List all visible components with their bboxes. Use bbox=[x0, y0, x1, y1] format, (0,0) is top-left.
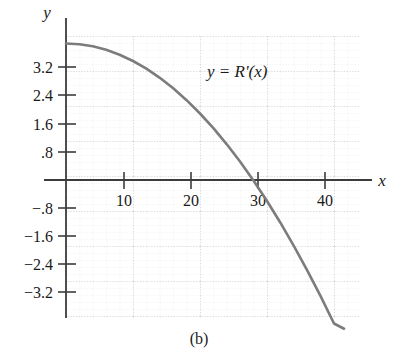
y-tick-label-neg1.6: −1.6 bbox=[24, 228, 53, 245]
y-tick-label-3.2: 3.2 bbox=[33, 59, 53, 76]
x-axis-label: x bbox=[377, 171, 386, 190]
chart-canvas: 10 20 30 40 3.2 2.4 1.6 .8 −.8 −1.6 −2.4… bbox=[0, 0, 398, 356]
figure-caption: (b) bbox=[0, 330, 398, 348]
y-tick-label-2.4: 2.4 bbox=[33, 87, 53, 104]
x-tick-label-40: 40 bbox=[317, 192, 333, 209]
y-tick-label-0.8: .8 bbox=[41, 144, 53, 161]
y-tick-label-neg2.4: −2.4 bbox=[24, 256, 53, 273]
y-tick-label-neg0.8: −.8 bbox=[32, 200, 53, 217]
y-tick-label-neg3.2: −3.2 bbox=[24, 284, 53, 301]
y-axis-label: y bbox=[41, 3, 51, 22]
x-tick-label-20: 20 bbox=[183, 192, 199, 209]
figure-container: 10 20 30 40 3.2 2.4 1.6 .8 −.8 −1.6 −2.4… bbox=[0, 0, 398, 356]
curve-annotation-label: y = R'(x) bbox=[205, 62, 268, 81]
x-tick-label-10: 10 bbox=[116, 192, 132, 209]
y-tick-label-1.6: 1.6 bbox=[33, 116, 53, 133]
